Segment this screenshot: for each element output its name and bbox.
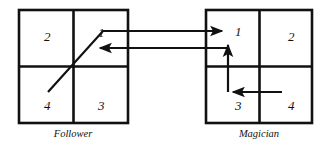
group-follower: 2 1 4 3: [19, 10, 128, 123]
magician-cell-1-label: 1: [235, 24, 242, 39]
magician-cell-2-label: 2: [288, 29, 295, 44]
follower-cell-4-label: 4: [44, 98, 51, 113]
magician-cell-4-label: 4: [288, 98, 295, 113]
magician-caption: Magician: [238, 128, 279, 139]
group-magician: 1 2 3 4: [206, 10, 312, 123]
figure-canvas: 2 1 4 3 1 2 3 4 Follower Magician: [0, 0, 328, 145]
connectors: [48, 31, 282, 92]
magician-cell-3-label: 3: [234, 98, 242, 113]
follower-cell-3-label: 3: [97, 98, 105, 113]
follower-caption: Follower: [53, 128, 93, 139]
diagram-svg: 2 1 4 3 1 2 3 4 Follower Magician: [0, 0, 328, 145]
follower-cell-2-label: 2: [44, 29, 51, 44]
